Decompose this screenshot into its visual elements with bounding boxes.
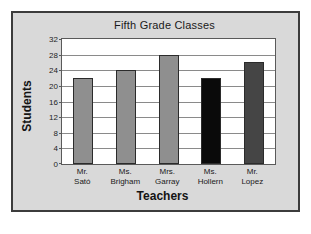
y-tick-label: 12: [49, 113, 58, 122]
chart-figure-frame: Fifth Grade Classes Students 04812162024…: [11, 11, 300, 212]
plot-area: 048121620242832: [61, 38, 276, 165]
y-tick-label: 20: [49, 81, 58, 90]
bar: [244, 62, 264, 164]
y-tick-label: 28: [49, 50, 58, 59]
y-axis-title: Students: [20, 71, 34, 141]
y-tick-label: 32: [49, 35, 58, 44]
x-axis-title: Teachers: [13, 189, 298, 203]
x-tick-label: Mr.Lopez: [226, 167, 279, 187]
bars-group: [62, 39, 275, 164]
bar: [201, 78, 221, 164]
y-tick-label: 4: [54, 144, 58, 153]
y-tick-label: 8: [54, 128, 58, 137]
x-tick-label-line1: Mr.: [226, 167, 279, 177]
chart-title: Fifth Grade Classes: [13, 19, 298, 31]
bar: [159, 55, 179, 164]
bar: [73, 78, 93, 164]
x-tick-label-line2: Lopez: [226, 177, 279, 187]
bar: [116, 70, 136, 164]
y-tick-label: 24: [49, 66, 58, 75]
y-tick-label: 16: [49, 97, 58, 106]
